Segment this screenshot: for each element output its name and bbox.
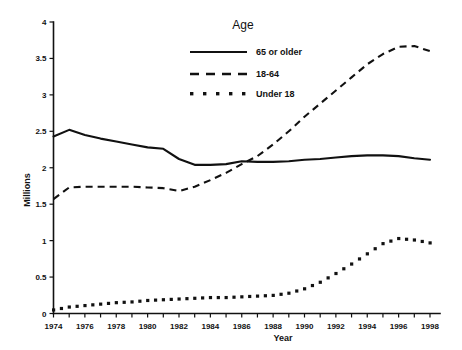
svg-text:0: 0: [42, 310, 47, 319]
svg-text:1994: 1994: [358, 322, 376, 331]
legend-label-18-64: 18-64: [256, 69, 279, 79]
y-axis-tick-labels: 00.511.522.533.54: [35, 18, 47, 319]
svg-text:1988: 1988: [264, 322, 282, 331]
svg-text:2: 2: [42, 164, 47, 173]
chart-legend: Age 65 or older 18-64 Under 18: [190, 18, 303, 99]
svg-text:0.5: 0.5: [35, 273, 47, 282]
svg-text:1978: 1978: [107, 322, 125, 331]
svg-text:1976: 1976: [76, 322, 94, 331]
svg-text:1982: 1982: [170, 322, 188, 331]
chart-plot-area: 00.511.522.533.54 1974197619781980198219…: [0, 0, 462, 350]
svg-text:1990: 1990: [296, 322, 314, 331]
svg-text:1986: 1986: [233, 322, 251, 331]
x-axis-tick-labels: 1974197619781980198219841986198819901992…: [45, 322, 440, 331]
svg-text:2.5: 2.5: [35, 127, 47, 136]
x-axis-title: Year: [273, 333, 293, 343]
legend-title: Age: [232, 18, 254, 32]
svg-text:1974: 1974: [45, 322, 63, 331]
svg-text:1.5: 1.5: [35, 200, 47, 209]
y-axis-title: Millions: [22, 173, 32, 207]
svg-text:1: 1: [42, 237, 47, 246]
series-18-64: [54, 46, 431, 199]
legend-label-65-or-older: 65 or older: [256, 47, 303, 57]
chart-figure: 00.511.522.533.54 1974197619781980198219…: [0, 0, 462, 350]
svg-text:1980: 1980: [139, 322, 157, 331]
svg-text:3.5: 3.5: [35, 54, 47, 63]
svg-text:3: 3: [42, 91, 47, 100]
legend-sample-under-18: [190, 92, 245, 95]
svg-text:1992: 1992: [327, 322, 345, 331]
legend-label-under-18: Under 18: [256, 89, 295, 99]
svg-text:4: 4: [42, 18, 47, 27]
series-65-or-older: [54, 130, 431, 165]
svg-text:1998: 1998: [421, 322, 439, 331]
series-under-18: [52, 237, 432, 312]
svg-text:1984: 1984: [201, 322, 219, 331]
svg-text:1996: 1996: [390, 322, 408, 331]
